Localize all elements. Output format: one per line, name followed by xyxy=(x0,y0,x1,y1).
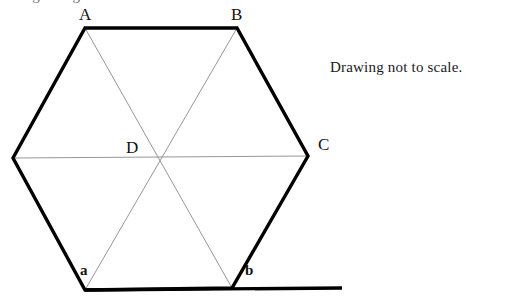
angle-label-b: b xyxy=(245,263,253,278)
diagonals-group xyxy=(13,28,308,290)
baseline-ray xyxy=(85,288,342,290)
vertex-label-a: A xyxy=(79,6,91,23)
not-to-scale-note: Drawing not to scale. xyxy=(330,59,463,76)
hexagon-figure xyxy=(0,0,529,307)
diagonal-b-to-lower-left xyxy=(85,28,237,290)
diagonal-a-to-lower-right xyxy=(85,28,232,288)
angle-label-a: a xyxy=(80,263,88,278)
vertex-label-b: B xyxy=(231,6,242,23)
vertex-label-c: C xyxy=(318,136,329,153)
diagonal-left-to-c xyxy=(13,156,308,158)
vertex-label-d: D xyxy=(126,139,138,156)
